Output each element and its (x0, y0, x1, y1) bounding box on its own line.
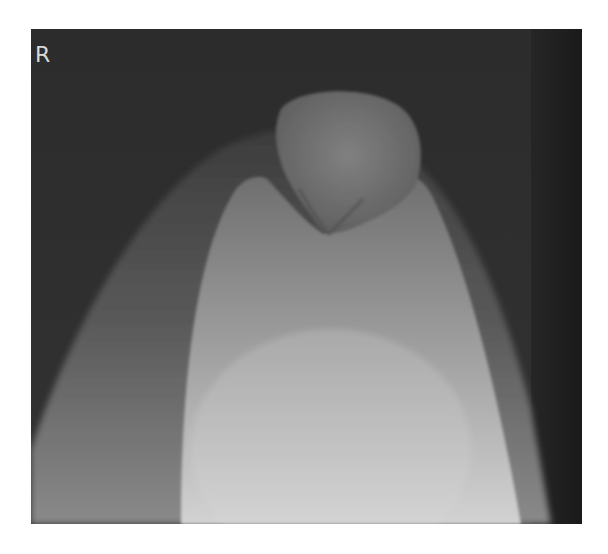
xray-graphic (31, 29, 582, 524)
xray-image (31, 29, 582, 524)
side-marker-label: R (35, 44, 50, 66)
